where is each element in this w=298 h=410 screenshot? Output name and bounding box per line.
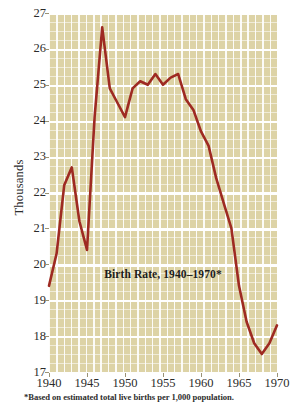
y-tick-mark (45, 336, 49, 337)
y-tick-label: 19 (6, 294, 46, 307)
x-tick-mark (239, 373, 240, 377)
y-tick-mark (45, 300, 49, 301)
data-series-line (49, 13, 277, 372)
y-tick-label: 27 (6, 7, 46, 20)
chart-footnote: *Based on estimated total live births pe… (24, 392, 294, 402)
y-tick-mark (45, 85, 49, 86)
y-tick-label: 18 (6, 330, 46, 343)
y-tick-mark (45, 228, 49, 229)
y-tick-label: 26 (6, 42, 46, 55)
x-tick-mark (163, 373, 164, 377)
chart-title: Birth Rate, 1940–1970* (49, 268, 277, 280)
x-tick-label: 1970 (247, 377, 298, 390)
y-tick-mark (45, 121, 49, 122)
x-tick-mark (49, 373, 50, 377)
y-tick-label: 21 (6, 222, 46, 235)
plot-area (49, 13, 277, 372)
y-tick-label: 20 (6, 258, 46, 271)
x-tick-mark (201, 373, 202, 377)
x-tick-mark (87, 373, 88, 377)
x-tick-mark (277, 373, 278, 377)
y-tick-label: 23 (6, 150, 46, 163)
y-tick-mark (45, 49, 49, 50)
y-tick-mark (45, 193, 49, 194)
y-tick-label: 24 (6, 114, 46, 127)
y-tick-mark (45, 13, 49, 14)
birth-rate-figure: Thousands Birth Rate, 1940–1970* 2726252… (0, 0, 298, 410)
y-tick-label: 22 (6, 186, 46, 199)
y-tick-mark (45, 157, 49, 158)
y-tick-label: 25 (6, 78, 46, 91)
y-tick-mark (45, 264, 49, 265)
x-tick-mark (125, 373, 126, 377)
